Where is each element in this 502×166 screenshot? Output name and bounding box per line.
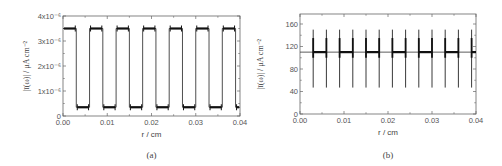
x-tick-label: 0.02 bbox=[144, 118, 159, 127]
x-axis-label: r / cm bbox=[378, 128, 398, 137]
chart-panel-a: 0.000.010.020.030.0401x10⁻⁶2x10⁻⁶3x10⁻⁶4… bbox=[22, 12, 247, 161]
y-tick-label: 3x10⁻⁶ bbox=[38, 37, 61, 46]
x-tick-label: 0.03 bbox=[188, 118, 203, 127]
x-tick-label: 0.04 bbox=[469, 116, 484, 125]
x-tick-label: 0.01 bbox=[100, 118, 115, 127]
figure-caption: (a) bbox=[147, 150, 157, 160]
y-axis-label: |ī(ω)| / μA cm⁻² bbox=[22, 40, 31, 91]
chart-panel-b: 0.000.010.020.030.0404080120160r / cm|ī(… bbox=[256, 14, 483, 160]
y-tick-label: 80 bbox=[290, 65, 298, 74]
y-tick-label: 1x10⁻⁶ bbox=[38, 87, 61, 96]
x-tick-label: 0.02 bbox=[381, 116, 396, 125]
x-tick-label: 0.03 bbox=[425, 116, 440, 125]
y-tick-label: 4x10⁻⁶ bbox=[38, 12, 61, 21]
y-axis-label: |ī(ω)| / μA cm⁻² bbox=[256, 38, 265, 89]
x-tick-label: 0.01 bbox=[337, 116, 352, 125]
y-tick-label: 40 bbox=[290, 87, 298, 96]
data-series bbox=[63, 29, 240, 108]
x-tick-label: 0.04 bbox=[233, 118, 248, 127]
x-axis-label: r / cm bbox=[142, 130, 162, 139]
y-tick-label: 160 bbox=[285, 20, 298, 29]
figure-caption: (b) bbox=[383, 150, 394, 160]
y-tick-label: 120 bbox=[285, 42, 298, 51]
figure: 0.000.010.020.030.0401x10⁻⁶2x10⁻⁶3x10⁻⁶4… bbox=[0, 0, 502, 166]
y-tick-label: 2x10⁻⁶ bbox=[38, 62, 61, 71]
y-tick-label: 0 bbox=[57, 112, 61, 121]
y-tick-label: 0 bbox=[294, 110, 298, 119]
